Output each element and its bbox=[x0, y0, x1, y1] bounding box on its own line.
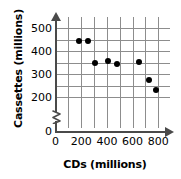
gridline-vertical bbox=[133, 17, 134, 128]
gridline-horizontal bbox=[56, 97, 170, 98]
x-axis-line bbox=[56, 131, 166, 133]
gridline-vertical bbox=[120, 17, 121, 128]
x-axis-tick-labels: 0200400600800 bbox=[0, 136, 181, 150]
y-axis-tick-label: 200 bbox=[22, 92, 52, 103]
y-axis-tick-label: 0 bbox=[22, 126, 52, 137]
gridline-horizontal bbox=[56, 28, 170, 29]
axis-break-icon bbox=[50, 110, 64, 124]
gridline-vertical bbox=[158, 17, 159, 128]
gridline-vertical bbox=[145, 17, 146, 128]
y-axis-line bbox=[55, 20, 57, 112]
gridline-vertical bbox=[94, 17, 95, 128]
gridline-horizontal bbox=[56, 74, 170, 75]
data-point bbox=[153, 87, 159, 93]
y-axis-arrowhead-icon bbox=[51, 12, 61, 21]
gridline-horizontal bbox=[56, 86, 170, 87]
gridline-vertical bbox=[68, 17, 69, 128]
gridline-vertical bbox=[107, 17, 108, 128]
data-point bbox=[92, 60, 98, 66]
plot-area bbox=[56, 17, 170, 128]
gridline-horizontal bbox=[56, 40, 170, 41]
gridline-vertical bbox=[81, 17, 82, 128]
y-axis-tick-label: 400 bbox=[22, 46, 52, 57]
data-point bbox=[114, 61, 120, 67]
gridline-horizontal bbox=[56, 51, 170, 52]
x-axis-title: CDs (millions) bbox=[40, 158, 170, 171]
y-axis-tick-labels: 0200300400500 bbox=[18, 0, 52, 179]
x-axis-tick-label: 800 bbox=[143, 136, 173, 147]
data-point bbox=[105, 58, 111, 64]
y-axis-tick-label: 300 bbox=[22, 69, 52, 80]
y-axis-tick-label: 500 bbox=[22, 23, 52, 34]
scatter-plot-figure: Cassettes (millions) 0200300400500 02004… bbox=[0, 0, 181, 179]
data-point bbox=[76, 38, 82, 44]
